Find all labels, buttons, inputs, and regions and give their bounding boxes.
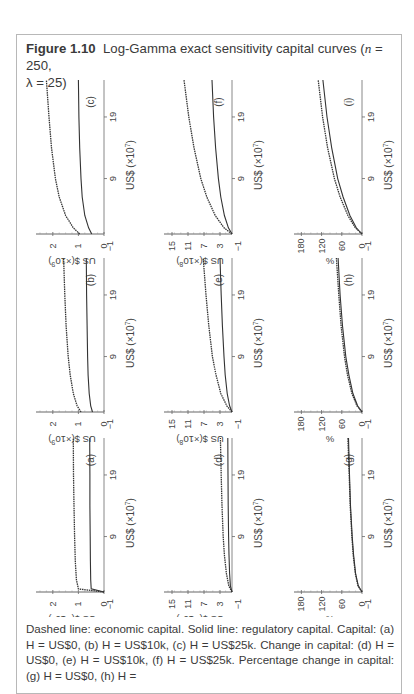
value-tick-label: 3 xyxy=(215,601,225,606)
value-tick-label: 1 xyxy=(73,421,83,426)
value-tick-label: 3 xyxy=(215,243,225,248)
usd-tick-label: 9 xyxy=(365,534,376,539)
plot-grid: −1012919US$ (×107)US $(×109)(a)−1012919U… xyxy=(20,72,400,617)
usd-axis-title: US$ (×107) xyxy=(382,498,394,548)
usd-axis-title: US$ (×107) xyxy=(382,318,394,368)
usd-axis-title: US$ (×107) xyxy=(124,498,136,548)
panel-label: (i) xyxy=(343,98,354,107)
economic-capital-line xyxy=(318,80,362,234)
value-tick-label: −1 xyxy=(233,419,243,429)
value-axis-title: US $(×108) xyxy=(176,434,223,446)
value-tick-label: 120 xyxy=(317,596,327,611)
value-tick-label: 15 xyxy=(167,599,177,609)
value-tick-label: 60 xyxy=(337,419,347,429)
value-tick-label: 0 xyxy=(357,601,367,606)
usd-axis-title: US$ (×107) xyxy=(382,140,394,190)
usd-tick-label: 19 xyxy=(235,112,246,123)
value-tick-label: 120 xyxy=(317,238,327,253)
panel-f: −1371115919US$ (×107)US $(×108)(f) xyxy=(164,80,264,268)
panel-label: (d) xyxy=(213,454,224,466)
usd-tick-label: 9 xyxy=(107,354,118,359)
value-tick-label: 3 xyxy=(215,421,225,426)
value-tick-label: 0 xyxy=(357,421,367,426)
usd-tick-label: 19 xyxy=(235,470,246,481)
value-tick-label: 2 xyxy=(48,601,58,606)
value-tick-label: 11 xyxy=(183,599,193,608)
value-axis-title: % xyxy=(325,256,334,267)
value-tick-label: 60 xyxy=(337,599,347,609)
figure-label: Figure 1.10 xyxy=(26,41,96,56)
usd-tick-label: 9 xyxy=(235,176,246,181)
value-tick-label: 2 xyxy=(48,421,58,426)
value-axis-title: US $(×108) xyxy=(176,614,223,617)
economic-capital-line xyxy=(184,80,232,234)
panel-d: −1371115919US$ (×107)US $(×108)(d) xyxy=(164,438,264,617)
rotated-chart-grid: −1012919US$ (×107)US $(×109)(a)−1012919U… xyxy=(20,72,400,617)
value-axis-title: US $(×108) xyxy=(176,256,223,268)
usd-tick-label: 9 xyxy=(107,534,118,539)
value-tick-label: 1 xyxy=(73,601,83,606)
value-tick-label: 15 xyxy=(167,419,177,429)
usd-tick-label: 19 xyxy=(235,290,246,301)
usd-axis-title: US$ (×107) xyxy=(252,318,264,368)
panel-e: −1371115919US$ (×107)US $(×108)(e) xyxy=(164,258,264,446)
value-axis-title: US $(×109) xyxy=(48,256,95,268)
figure-title-text: Log-Gamma exact sensitivity capital curv… xyxy=(103,41,365,56)
value-tick-label: 180 xyxy=(296,416,306,431)
panel-label: (h) xyxy=(343,274,354,286)
usd-tick-label: 9 xyxy=(365,176,376,181)
usd-tick-label: 9 xyxy=(107,176,118,181)
value-tick-label: 0 xyxy=(99,601,109,606)
figure-caption: Dashed line: economic capital. Solid lin… xyxy=(26,621,394,683)
value-axis-title: % xyxy=(325,434,334,445)
value-tick-label: −1 xyxy=(233,241,243,251)
usd-tick-label: 19 xyxy=(107,470,118,481)
usd-tick-label: 19 xyxy=(365,290,376,301)
usd-tick-label: 9 xyxy=(365,354,376,359)
usd-tick-label: 9 xyxy=(235,534,246,539)
panel-g: −1060120180919US$ (×107)%(g) xyxy=(294,438,394,617)
usd-axis-title: US$ (×107) xyxy=(124,140,136,190)
panel-h: −1060120180919US$ (×107)%(h) xyxy=(294,258,394,445)
value-tick-label: 180 xyxy=(296,596,306,611)
panel-c: −1012919US$ (×107)US $(×109)(c) xyxy=(36,80,136,268)
value-tick-label: 11 xyxy=(183,419,193,428)
value-tick-label: 0 xyxy=(357,243,367,248)
panel-label: (e) xyxy=(213,274,224,286)
panel-label: (c) xyxy=(85,96,96,108)
panel-i: −1060120180919US$ (×107)%(i) xyxy=(294,80,394,267)
usd-tick-label: 19 xyxy=(365,470,376,481)
usd-tick-label: 9 xyxy=(235,354,246,359)
regulatory-capital-line xyxy=(228,438,232,592)
usd-tick-label: 19 xyxy=(107,290,118,301)
value-tick-label: 1 xyxy=(73,243,83,248)
panel-label: (f) xyxy=(213,97,224,106)
panel-b: −1012919US$ (×107)US $(×109)(b) xyxy=(36,258,136,446)
economic-capital-line xyxy=(64,258,81,412)
usd-axis-title: US$ (×107) xyxy=(124,318,136,368)
value-tick-label: 0 xyxy=(99,421,109,426)
value-tick-label: 120 xyxy=(317,416,327,431)
value-axis-title: % xyxy=(325,614,334,617)
value-tick-label: 11 xyxy=(183,241,193,250)
economic-capital-line xyxy=(46,80,79,234)
usd-axis-title: US$ (×107) xyxy=(252,498,264,548)
usd-axis-title: US$ (×107) xyxy=(252,140,264,190)
value-tick-label: 0 xyxy=(99,243,109,248)
value-tick-label: −1 xyxy=(233,599,243,609)
value-tick-label: 180 xyxy=(296,238,306,253)
panel-label: (a) xyxy=(85,454,96,466)
value-tick-label: 60 xyxy=(337,241,347,251)
usd-tick-label: 19 xyxy=(365,112,376,123)
value-tick-label: 7 xyxy=(199,421,209,426)
value-axis-title: US $(×109) xyxy=(48,614,95,617)
value-tick-label: 7 xyxy=(199,601,209,606)
value-tick-label: 7 xyxy=(199,243,209,248)
usd-tick-label: 19 xyxy=(107,112,118,123)
panel-a: −1012919US$ (×107)US $(×109)(a) xyxy=(36,438,136,617)
value-tick-label: 2 xyxy=(48,243,58,248)
value-tick-label: 15 xyxy=(167,241,177,251)
value-axis-title: US $(×109) xyxy=(48,434,95,446)
